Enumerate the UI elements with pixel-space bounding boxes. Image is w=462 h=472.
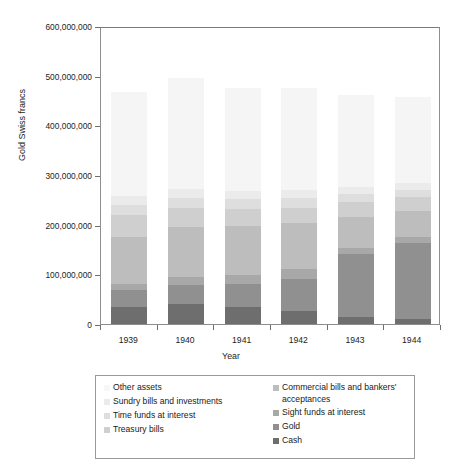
bar-segment[interactable] bbox=[281, 269, 317, 279]
legend-swatch-icon bbox=[104, 413, 110, 419]
bar-segment[interactable] bbox=[168, 78, 204, 189]
x-axis-label: Year bbox=[0, 351, 462, 361]
legend-label: Commercial bills and bankers' acceptance… bbox=[282, 381, 413, 405]
bar-segment[interactable] bbox=[338, 254, 374, 317]
bar-segment[interactable] bbox=[395, 97, 431, 183]
bar-column-1944[interactable] bbox=[395, 26, 431, 324]
bars-layer bbox=[101, 28, 439, 324]
bar-segment[interactable] bbox=[168, 189, 204, 198]
x-axis-tick-mark bbox=[440, 325, 441, 330]
bar-segment[interactable] bbox=[281, 311, 317, 324]
bar-column-1943[interactable] bbox=[338, 26, 374, 324]
bar-segment[interactable] bbox=[225, 88, 261, 191]
legend-label: Time funds at interest bbox=[113, 409, 195, 421]
bar-segment[interactable] bbox=[338, 194, 374, 202]
bar-segment[interactable] bbox=[395, 319, 431, 324]
bar-segment[interactable] bbox=[225, 275, 261, 284]
bar-segment[interactable] bbox=[225, 307, 261, 324]
legend-label: Other assets bbox=[113, 381, 162, 393]
bar-segment[interactable] bbox=[111, 205, 147, 215]
legend-item[interactable]: Sundry bills and investments bbox=[104, 395, 264, 408]
legend-item[interactable]: Treasury bills bbox=[104, 423, 264, 436]
bar-segment[interactable] bbox=[168, 227, 204, 278]
y-axis-tick-label: 600,000,000 bbox=[0, 23, 92, 31]
bar-segment[interactable] bbox=[225, 284, 261, 307]
bar-column-1942[interactable] bbox=[281, 26, 317, 324]
x-axis-tick-mark bbox=[213, 325, 214, 330]
bar-segment[interactable] bbox=[395, 190, 431, 197]
y-axis-tick-label: 200,000,000 bbox=[0, 222, 92, 230]
bar-segment[interactable] bbox=[225, 191, 261, 199]
legend-label: Treasury bills bbox=[113, 423, 164, 435]
legend-item[interactable]: Other assets bbox=[104, 381, 264, 394]
x-axis-tick-label: 1942 bbox=[271, 335, 325, 345]
bar-segment[interactable] bbox=[395, 197, 431, 211]
bar-segment[interactable] bbox=[225, 199, 261, 209]
bar-segment[interactable] bbox=[168, 208, 204, 227]
legend-swatch-icon bbox=[273, 438, 279, 444]
x-axis-tick-label: 1943 bbox=[328, 335, 382, 345]
bar-segment[interactable] bbox=[281, 198, 317, 208]
bar-segment[interactable] bbox=[395, 237, 431, 243]
chart-container: Gold Swiss francs 0100,000,000200,000,00… bbox=[0, 0, 462, 472]
bar-segment[interactable] bbox=[111, 92, 147, 196]
bar-segment[interactable] bbox=[338, 95, 374, 187]
x-axis-tick-label: 1940 bbox=[158, 335, 212, 345]
x-axis-tick-label: 1944 bbox=[385, 335, 439, 345]
legend-item[interactable]: Cash bbox=[273, 434, 413, 447]
bar-segment[interactable] bbox=[338, 202, 374, 217]
legend-item[interactable]: Gold bbox=[273, 420, 413, 433]
bar-column-1940[interactable] bbox=[168, 26, 204, 324]
legend-column-right: Commercial bills and bankers' acceptance… bbox=[273, 381, 413, 448]
bar-segment[interactable] bbox=[111, 237, 147, 285]
y-axis-tick-label: 300,000,000 bbox=[0, 172, 92, 180]
bar-segment[interactable] bbox=[281, 279, 317, 311]
legend-item[interactable]: Sight funds at interest bbox=[273, 406, 413, 419]
bar-segment[interactable] bbox=[168, 304, 204, 324]
bar-segment[interactable] bbox=[168, 198, 204, 208]
bar-segment[interactable] bbox=[111, 215, 147, 237]
x-axis-tick-mark bbox=[157, 325, 158, 330]
legend: Other assetsSundry bills and investments… bbox=[95, 375, 415, 459]
legend-label: Sight funds at interest bbox=[282, 406, 365, 418]
bar-segment[interactable] bbox=[111, 284, 147, 290]
bar-segment[interactable] bbox=[168, 277, 204, 285]
bar-segment[interactable] bbox=[168, 285, 204, 304]
bar-segment[interactable] bbox=[395, 183, 431, 190]
x-axis-tick-label: 1941 bbox=[215, 335, 269, 345]
x-axis-tick-mark bbox=[383, 325, 384, 330]
legend-swatch-icon bbox=[273, 424, 279, 430]
bar-column-1941[interactable] bbox=[225, 26, 261, 324]
y-axis-tick-label: 0 bbox=[0, 321, 92, 329]
bar-segment[interactable] bbox=[111, 307, 147, 324]
y-axis-tick-label: 500,000,000 bbox=[0, 73, 92, 81]
bar-segment[interactable] bbox=[281, 88, 317, 190]
legend-item[interactable]: Time funds at interest bbox=[104, 409, 264, 422]
legend-label: Sundry bills and investments bbox=[113, 395, 222, 407]
legend-item[interactable]: Commercial bills and bankers' acceptance… bbox=[273, 381, 413, 405]
bar-segment[interactable] bbox=[111, 196, 147, 205]
x-axis-tick-label: 1939 bbox=[101, 335, 155, 345]
bar-segment[interactable] bbox=[395, 211, 431, 237]
bar-segment[interactable] bbox=[281, 208, 317, 223]
bar-segment[interactable] bbox=[225, 226, 261, 276]
bar-segment[interactable] bbox=[338, 217, 374, 248]
y-axis-tick-label: 400,000,000 bbox=[0, 122, 92, 130]
bar-segment[interactable] bbox=[281, 223, 317, 270]
bar-column-1939[interactable] bbox=[111, 26, 147, 324]
bar-segment[interactable] bbox=[338, 317, 374, 324]
bar-segment[interactable] bbox=[281, 190, 317, 198]
legend-swatch-icon bbox=[104, 399, 110, 405]
bar-segment[interactable] bbox=[395, 243, 431, 319]
x-axis-tick-mark bbox=[100, 325, 101, 330]
bar-segment[interactable] bbox=[338, 248, 374, 255]
legend-swatch-icon bbox=[104, 385, 110, 391]
legend-column-left: Other assetsSundry bills and investments… bbox=[104, 381, 264, 437]
bar-segment[interactable] bbox=[111, 290, 147, 307]
bar-segment[interactable] bbox=[225, 209, 261, 226]
x-axis-tick-mark bbox=[327, 325, 328, 330]
y-axis-tick-label: 100,000,000 bbox=[0, 271, 92, 279]
legend-swatch-icon bbox=[273, 410, 279, 416]
plot-area bbox=[100, 27, 440, 325]
bar-segment[interactable] bbox=[338, 187, 374, 194]
